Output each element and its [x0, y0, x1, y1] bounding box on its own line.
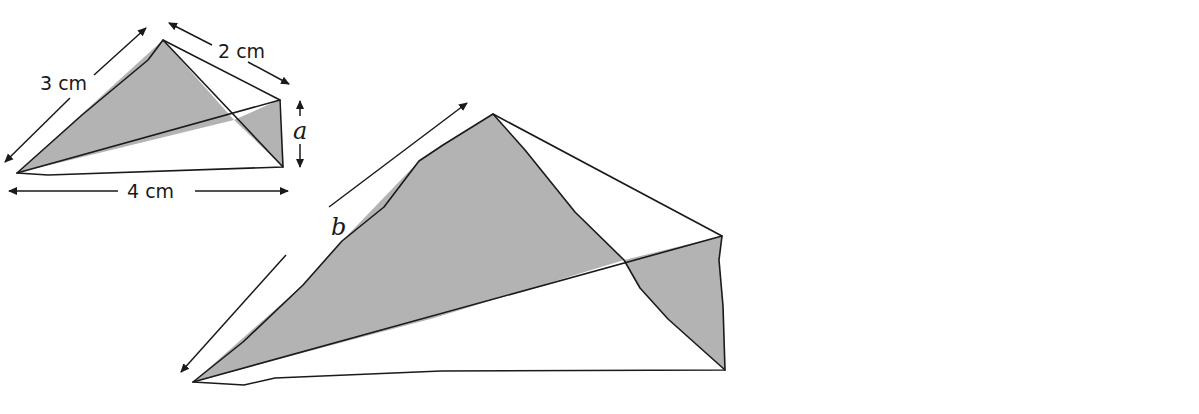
- medium-label-b: b: [331, 213, 346, 241]
- small-label-3cm: 3 cm: [40, 72, 87, 94]
- similar-shapes-diagram: 3 cm 2 cm a 4 cm b: [0, 0, 1199, 414]
- medium-shaded-face-right: [624, 236, 725, 370]
- medium-shaded-face-left: [193, 114, 624, 382]
- small-label-4cm: 4 cm: [127, 180, 174, 202]
- small-dim-2cm-arrow-left: [169, 23, 212, 45]
- small-label-a: a: [293, 117, 307, 145]
- small-shape: 3 cm 2 cm a 4 cm: [5, 23, 307, 202]
- small-label-2cm: 2 cm: [218, 40, 265, 62]
- small-dim-2cm-arrow-right: [248, 62, 289, 84]
